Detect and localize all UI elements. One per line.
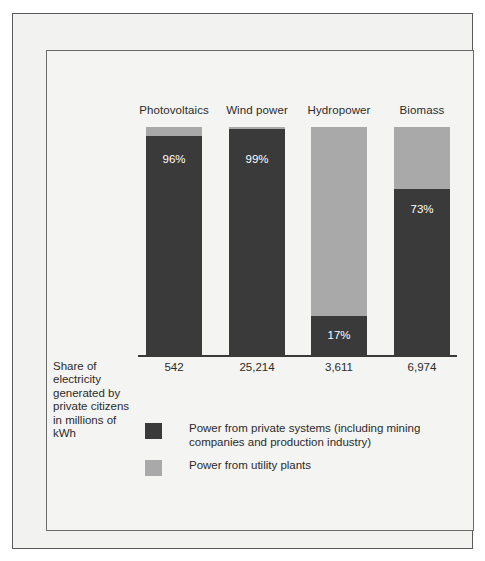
bar-wind-power: 99% — [229, 127, 285, 355]
value-label-biomass: 6,974 — [379, 361, 465, 373]
legend-swatch-utility-icon — [145, 460, 162, 476]
legend-swatch-private-icon — [145, 423, 162, 439]
bar-data-label-private: 73% — [394, 203, 450, 215]
bar-photovoltaics: 96% — [146, 127, 202, 355]
category-label-hydropower: Hydropower — [296, 104, 382, 116]
bar-biomass: 73% — [394, 127, 450, 355]
legend-item-utility: Power from utility plants — [145, 459, 465, 479]
legend-label-private: Power from private systems (including mi… — [189, 422, 465, 449]
value-label-photovoltaics: 542 — [131, 361, 217, 373]
bar-segment-utility — [146, 127, 202, 136]
category-label-wind-power: Wind power — [214, 104, 300, 116]
inner-frame: Photovoltaics Wind power Hydropower Biom… — [46, 50, 474, 531]
bar-data-label-private: 96% — [146, 153, 202, 165]
chart-page: Photovoltaics Wind power Hydropower Biom… — [0, 0, 485, 561]
value-label-hydropower: 3,611 — [296, 361, 382, 373]
bar-data-label-private: 17% — [311, 329, 367, 341]
category-label-photovoltaics: Photovoltaics — [131, 104, 217, 116]
outer-frame: Photovoltaics Wind power Hydropower Biom… — [12, 13, 473, 549]
value-label-wind-power: 25,214 — [214, 361, 300, 373]
bar-segment-utility — [394, 127, 450, 189]
axis-baseline — [138, 355, 457, 357]
legend-item-private: Power from private systems (including mi… — [145, 422, 465, 449]
legend-label-utility: Power from utility plants — [189, 459, 465, 473]
category-label-biomass: Biomass — [379, 104, 465, 116]
bar-segment-private — [146, 136, 202, 355]
bar-data-label-private: 99% — [229, 153, 285, 165]
bar-segment-utility — [311, 127, 367, 316]
chart-legend: Power from private systems (including mi… — [145, 422, 465, 489]
axis-caption: Share of electricity generated by privat… — [53, 360, 135, 440]
chart-plot-area: Photovoltaics Wind power Hydropower Biom… — [47, 51, 475, 532]
bar-hydropower: 17% — [311, 127, 367, 355]
